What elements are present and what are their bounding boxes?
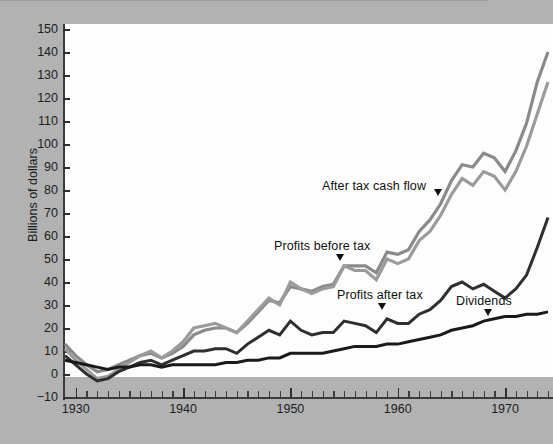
x-tick-minor [387,391,388,398]
y-tick-mark [63,397,70,399]
annotation-dividends: Dividends [456,294,512,308]
y-tick-mark [63,305,70,307]
x-tick-minor [162,391,163,398]
x-tick-minor [408,391,409,398]
x-tick-minor [86,391,87,398]
y-tick-label-text: 0 [14,368,58,381]
x-axis-line [63,397,553,399]
x-tick-minor [494,391,495,398]
x-tick-minor [119,391,120,398]
y-tick-label-text: 40 [14,276,58,289]
y-tick-mark [63,29,70,31]
y-tick-label-text: 90 [14,161,58,174]
x-tick-minor [451,391,452,398]
y-tick-label-text: 130 [14,69,58,82]
plot-area [63,24,553,377]
x-tick-minor [172,391,173,398]
x-tick-minor [215,391,216,398]
x-tick-minor [108,391,109,398]
x-tick-minor [280,391,281,398]
x-tick-minor [462,391,463,398]
y-tick-label: 10 [14,345,58,357]
y-tick-label: 30 [14,299,58,311]
y-tick-mark [63,190,70,192]
y-tick-label: 90 [14,161,58,173]
x-tick-major [183,388,185,398]
y-tick-label: 120 [14,92,58,104]
annotation-pointer-after-tax-cash-flow [434,189,442,196]
y-tick-label-text: 80 [14,184,58,197]
x-tick-minor [247,391,248,398]
y-tick-label-text: 10 [14,345,58,358]
annotation-after-tax-cash-flow: After tax cash flow [322,179,426,193]
x-tick-minor [430,391,431,398]
y-tick-label-text: 150 [14,23,58,36]
y-tick-mark [63,213,70,215]
x-tick-minor [323,391,324,398]
x-tick-minor [129,391,130,398]
x-tick-minor [269,391,270,398]
annotation-pointer-dividends [484,309,492,316]
y-tick-mark [63,328,70,330]
annotation-profits-before-tax: Profits before tax [274,239,370,253]
x-tick-minor [441,391,442,398]
x-tick-label: 1950 [260,402,320,416]
x-tick-minor [97,391,98,398]
y-tick-label-text: 20 [14,322,58,335]
y-tick-label: 150 [14,23,58,35]
x-tick-major [290,388,292,398]
x-tick-major [398,388,400,398]
y-tick-label-text: 60 [14,230,58,243]
x-tick-minor [226,391,227,398]
y-tick-label-text: 110 [14,115,58,128]
y-tick-label-text: 120 [14,92,58,105]
y-tick-mark [63,121,70,123]
x-tick-minor [516,391,517,398]
x-tick-minor [548,391,549,398]
x-tick-label: 1930 [46,402,106,416]
y-tick-label: 140 [14,46,58,58]
x-tick-label: 1960 [368,402,428,416]
y-tick-label: 60 [14,230,58,242]
annotation-profits-after-tax: Profits after tax [337,288,423,302]
x-tick-minor [537,391,538,398]
annotation-pointer-profits-after-tax [378,303,386,310]
y-tick-mark [63,144,70,146]
x-tick-minor [312,391,313,398]
x-tick-minor [301,391,302,398]
y-tick-label-text: 70 [14,207,58,220]
x-tick-minor [258,391,259,398]
y-tick-mark [63,236,70,238]
x-tick-label: 1940 [153,402,213,416]
y-tick-label: 130 [14,69,58,81]
x-tick-minor [527,391,528,398]
y-tick-label: 50 [14,253,58,265]
y-axis-line [63,24,65,400]
x-tick-minor [205,391,206,398]
y-tick-mark [63,259,70,261]
x-tick-minor [473,391,474,398]
y-tick-mark [63,351,70,353]
y-tick-label: 80 [14,184,58,196]
x-tick-minor [484,391,485,398]
x-tick-minor [344,391,345,398]
y-tick-label-text: 50 [14,253,58,266]
y-tick-label: 70 [14,207,58,219]
y-tick-mark [63,52,70,54]
y-tick-label: 20 [14,322,58,334]
y-tick-mark [63,75,70,77]
y-tick-label-text: 100 [14,138,58,151]
x-tick-minor [194,391,195,398]
y-tick-label-text: 30 [14,299,58,312]
x-tick-minor [151,391,152,398]
x-tick-major [505,388,507,398]
x-tick-minor [237,391,238,398]
y-tick-label: 0 [14,368,58,380]
y-tick-label: 100 [14,138,58,150]
x-tick-minor [333,391,334,398]
x-tick-minor [419,391,420,398]
annotation-pointer-profits-before-tax [336,254,344,261]
x-tick-label: 1970 [475,402,535,416]
x-tick-minor [140,391,141,398]
y-tick-label: 110 [14,115,58,127]
